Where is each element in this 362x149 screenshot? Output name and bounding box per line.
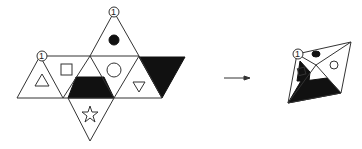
arrow-icon [224, 76, 250, 80]
black-dot-icon [109, 35, 119, 45]
diagram-canvas: 1 1 1 [0, 0, 362, 149]
label-1-left: 1 [39, 51, 44, 61]
label-1-top: 1 [111, 7, 116, 17]
solid-label-1: 1 [295, 49, 300, 59]
circle-icon [107, 63, 121, 77]
solid-black-trapezoid [288, 78, 341, 103]
inverted-triangle-icon [133, 82, 145, 92]
star-icon [82, 106, 98, 122]
square-icon [61, 64, 72, 75]
black-triangle [139, 57, 185, 98]
net [17, 7, 185, 141]
small-triangle-icon [35, 74, 49, 86]
